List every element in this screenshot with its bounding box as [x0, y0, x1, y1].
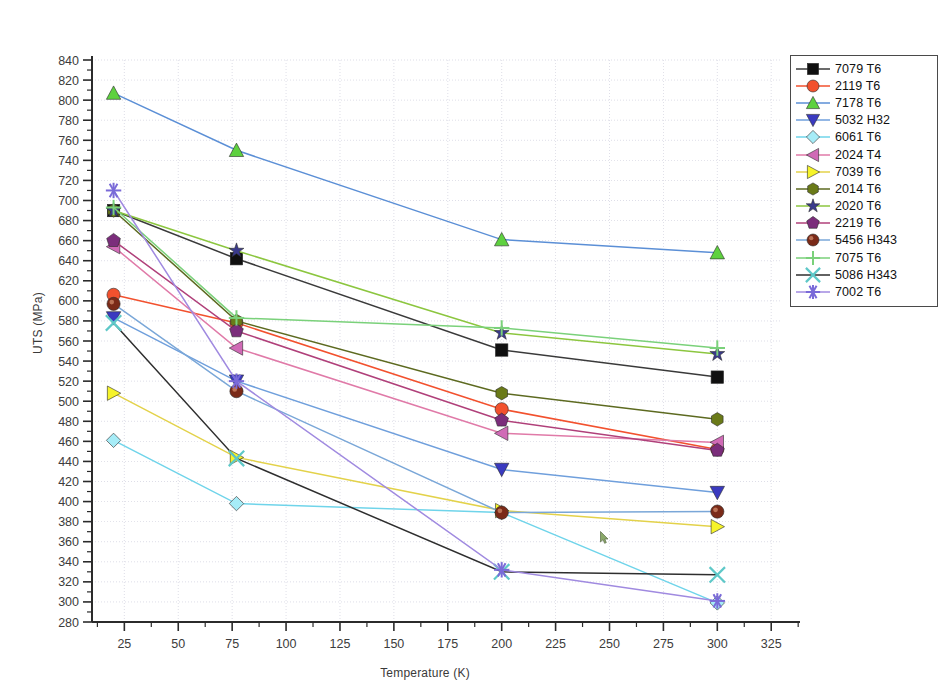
svg-text:250: 250: [599, 637, 620, 651]
legend-label: 5032 H32: [835, 113, 890, 127]
legend-label: 2219 T6: [835, 216, 881, 230]
svg-text:680: 680: [58, 214, 79, 228]
svg-text:280: 280: [58, 616, 79, 630]
legend-label: 7039 T6: [835, 165, 881, 179]
series-2219-t6: [107, 233, 725, 456]
legend-marker-icon: [795, 232, 831, 248]
chart-legend: 7079 T62119 T67178 T65032 H326061 T62024…: [790, 55, 938, 307]
svg-text:150: 150: [383, 637, 404, 651]
axes: 2803003203403603804004204404604805005205…: [58, 54, 800, 652]
legend-label: 5086 H343: [835, 268, 897, 282]
svg-text:300: 300: [58, 595, 79, 609]
series-7002-t6: [106, 183, 725, 609]
legend-marker-icon: [795, 61, 831, 77]
svg-text:440: 440: [58, 455, 79, 469]
chart-container: 2803003203403603804004204404604805005205…: [0, 0, 949, 699]
svg-text:700: 700: [58, 194, 79, 208]
svg-text:25: 25: [117, 637, 131, 651]
legend-marker-icon: [795, 198, 831, 214]
legend-item[interactable]: 6061 T6: [795, 129, 933, 146]
svg-text:460: 460: [58, 435, 79, 449]
legend-marker-icon: [795, 267, 831, 283]
svg-text:740: 740: [58, 154, 79, 168]
series-7178-t6: [106, 86, 724, 259]
legend-marker-icon: [795, 129, 831, 145]
legend-marker-icon: [795, 112, 831, 128]
y-axis-title: UTS (MPa): [31, 263, 45, 383]
svg-text:580: 580: [58, 314, 79, 328]
svg-text:480: 480: [58, 415, 79, 429]
svg-text:225: 225: [545, 637, 566, 651]
legend-item[interactable]: 7039 T6: [795, 163, 933, 180]
svg-text:660: 660: [58, 234, 79, 248]
svg-text:300: 300: [707, 637, 728, 651]
series-layer: [106, 86, 725, 610]
svg-text:125: 125: [330, 637, 351, 651]
legend-item[interactable]: 2020 T6: [795, 198, 933, 215]
series-7075-t6: [106, 200, 725, 356]
svg-text:400: 400: [58, 495, 79, 509]
svg-text:620: 620: [58, 274, 79, 288]
mouse-cursor-icon: [600, 531, 609, 544]
legend-item[interactable]: 7075 T6: [795, 249, 933, 266]
legend-marker-icon: [795, 181, 831, 197]
svg-text:325: 325: [761, 637, 782, 651]
legend-item[interactable]: 7178 T6: [795, 94, 933, 111]
series-7079-t6: [107, 204, 723, 383]
legend-label: 2024 T4: [835, 148, 881, 162]
svg-text:780: 780: [58, 114, 79, 128]
svg-text:500: 500: [58, 395, 79, 409]
legend-marker-icon: [795, 215, 831, 231]
legend-label: 2119 T6: [835, 79, 880, 93]
legend-label: 7079 T6: [835, 62, 881, 76]
series-2119-t6: [107, 288, 724, 456]
legend-item[interactable]: 2024 T4: [795, 146, 933, 163]
legend-item[interactable]: 2119 T6: [795, 77, 933, 94]
legend-marker-icon: [795, 147, 831, 163]
svg-text:320: 320: [58, 575, 79, 589]
series-6061-t6: [106, 433, 724, 610]
legend-item[interactable]: 5032 H32: [795, 112, 933, 129]
legend-label: 7075 T6: [835, 251, 881, 265]
x-axis-title: Temperature (K): [275, 666, 575, 680]
svg-text:175: 175: [437, 637, 458, 651]
svg-text:820: 820: [58, 74, 79, 88]
svg-text:560: 560: [58, 335, 79, 349]
grid-lines: [92, 60, 782, 622]
svg-text:75: 75: [225, 637, 239, 651]
legend-item[interactable]: 2014 T6: [795, 180, 933, 197]
legend-item[interactable]: 7002 T6: [795, 283, 933, 300]
legend-label: 6061 T6: [835, 130, 881, 144]
svg-text:360: 360: [58, 535, 79, 549]
svg-text:380: 380: [58, 515, 79, 529]
series-2020-t6: [106, 203, 725, 361]
legend-label: 2020 T6: [835, 199, 881, 213]
legend-marker-icon: [795, 164, 831, 180]
legend-label: 7002 T6: [835, 285, 881, 299]
svg-text:340: 340: [58, 555, 79, 569]
svg-text:640: 640: [58, 254, 79, 268]
svg-text:420: 420: [58, 475, 79, 489]
svg-text:600: 600: [58, 294, 79, 308]
svg-text:840: 840: [58, 54, 79, 68]
svg-text:50: 50: [171, 637, 185, 651]
legend-marker-icon: [795, 284, 831, 300]
svg-text:200: 200: [491, 637, 512, 651]
legend-marker-icon: [795, 250, 831, 266]
legend-item[interactable]: 5456 H343: [795, 232, 933, 249]
legend-item[interactable]: 7079 T6: [795, 60, 933, 77]
legend-label: 7178 T6: [835, 96, 881, 110]
svg-text:275: 275: [653, 637, 674, 651]
svg-text:720: 720: [58, 174, 79, 188]
legend-item[interactable]: 2219 T6: [795, 215, 933, 232]
legend-label: 2014 T6: [835, 182, 881, 196]
series-5086-h343: [106, 315, 725, 582]
svg-text:540: 540: [58, 355, 79, 369]
legend-marker-icon: [795, 95, 831, 111]
legend-marker-icon: [795, 78, 831, 94]
svg-text:100: 100: [276, 637, 297, 651]
legend-label: 5456 H343: [835, 233, 897, 247]
legend-item[interactable]: 5086 H343: [795, 266, 933, 283]
svg-text:800: 800: [58, 94, 79, 108]
svg-text:520: 520: [58, 375, 79, 389]
